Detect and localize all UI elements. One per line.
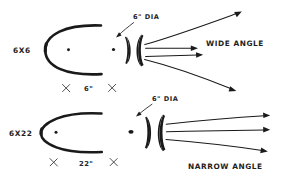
ray-narrow-1-arrowhead — [263, 112, 270, 118]
light-source-dot-wide — [67, 48, 70, 51]
callout-leader-narrow — [139, 104, 152, 114]
sketch-canvas: 6X6 6X22 6" 22" 6" DIA 6" DIA WIDE ANGLE… — [0, 0, 282, 191]
ray-narrow-1 — [166, 116, 264, 124]
light-source-dot-narrow — [55, 131, 58, 134]
ray-wide-2-arrowhead — [191, 45, 198, 51]
wide-angle-row — [45, 12, 242, 92]
reflector-wide — [45, 25, 101, 74]
dimension-label-narrow: 22" — [79, 160, 93, 168]
ray-wide-3 — [146, 55, 198, 57]
optics-sketch-diagram: 6X6 6X22 6" 22" 6" DIA 6" DIA WIDE ANGLE… — [0, 0, 282, 191]
callout-label-narrow: 6" DIA — [152, 95, 179, 103]
ray-wide-3-arrowhead — [196, 52, 203, 58]
ray-narrow-3 — [166, 140, 262, 151]
ray-narrow-2-arrowhead — [263, 127, 270, 133]
beam-label-wide: WIDE ANGLE — [206, 39, 264, 48]
ray-wide-4-arrowhead — [229, 86, 237, 91]
reflector-label-wide: 6X6 — [13, 46, 31, 55]
beam-label-narrow: NARROW ANGLE — [188, 162, 263, 171]
narrow-angle-row — [41, 104, 270, 166]
callout-label-wide: 6" DIA — [133, 13, 160, 21]
ray-narrow-2 — [166, 130, 264, 132]
reflector-label-narrow: 6X22 — [9, 129, 32, 138]
aperture-dot-wide — [112, 48, 115, 51]
callout-leader-wide — [119, 23, 134, 36]
reflector-narrow — [41, 113, 102, 152]
dimension-label-wide: 6" — [84, 85, 93, 93]
aperture-dot-narrow — [128, 130, 133, 134]
ray-wide-4 — [145, 59, 232, 88]
ray-narrow-3-arrowhead — [260, 148, 268, 154]
